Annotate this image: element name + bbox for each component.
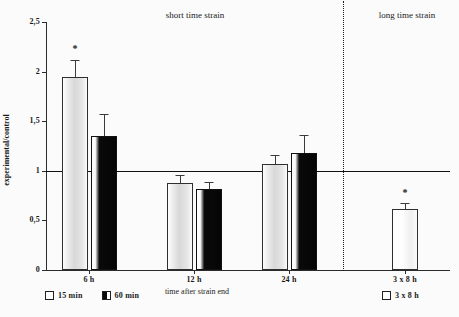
bar-3x8h — [392, 209, 418, 271]
x-label-12h: 12 h — [186, 275, 201, 284]
bar-12h-60min — [196, 189, 222, 270]
bar-12h-15min — [167, 183, 193, 270]
legend-label-15min: 15 min — [58, 291, 83, 300]
errorcap-24h-60min — [300, 135, 309, 136]
significance-6h-15min: * — [73, 44, 78, 54]
y-tick-label-0.5: 0,5 — [29, 216, 40, 224]
x-tick-24h — [289, 270, 290, 274]
legend-swatch-60min — [102, 291, 111, 300]
x-tick-12h — [194, 270, 195, 274]
y-tick-label-2: 2 — [36, 68, 40, 76]
plot-area: 2,5 2 1,5 1 0,5 0 short time strain long… — [47, 22, 450, 270]
region-label-short: short time strain — [166, 10, 225, 20]
x-tick-3x8h — [405, 270, 406, 274]
x-label-6h: 6 h — [83, 275, 94, 284]
bar-24h-60min — [291, 153, 317, 270]
y-tick-2.5 — [42, 22, 47, 23]
x-tick-6h — [89, 270, 90, 274]
errorcap-12h-60min — [205, 182, 214, 183]
bar-6h-15min — [62, 77, 88, 270]
legend-item-60min: 60 min — [102, 291, 140, 300]
bar-24h-15min — [262, 164, 288, 270]
errorbar-24h-15min — [275, 156, 276, 164]
legend-short-time: 15 min 60 min — [45, 291, 153, 300]
y-tick-label-1.5: 1,5 — [29, 117, 40, 125]
errorcap-3x8h — [401, 203, 410, 204]
y-axis-line — [46, 22, 47, 271]
significance-3x8h: * — [403, 188, 408, 198]
errorcap-6h-60min — [100, 114, 109, 115]
errorbar-3x8h — [405, 204, 406, 209]
y-tick-1.5 — [42, 121, 47, 122]
bar-6h-60min — [91, 136, 117, 270]
legend-label-3x8h: 3 x 8 h — [395, 291, 419, 300]
legend-swatch-3x8h — [382, 291, 391, 300]
y-tick-2 — [42, 72, 47, 73]
legend-long-time: 3 x 8 h — [382, 291, 433, 300]
errorbar-24h-60min — [304, 136, 305, 153]
y-tick-label-2.5: 2,5 — [29, 18, 40, 26]
y-tick-0.5 — [42, 220, 47, 221]
errorbar-6h-15min — [75, 61, 76, 77]
x-axis-line — [46, 270, 450, 271]
region-divider — [343, 1, 344, 271]
x-label-24h: 24 h — [281, 275, 296, 284]
errorbar-6h-60min — [104, 115, 105, 136]
errorbar-12h-15min — [180, 176, 181, 183]
legend-swatch-15min — [45, 291, 54, 300]
legend-item-15min: 15 min — [45, 291, 83, 300]
legend-label-60min: 60 min — [115, 291, 140, 300]
x-axis-title: time after strain end — [165, 287, 229, 296]
y-tick-label-0: 0 — [36, 266, 40, 274]
errorbar-12h-60min — [209, 183, 210, 189]
legend-item-3x8h: 3 x 8 h — [382, 291, 419, 300]
y-tick-label-1: 1 — [36, 167, 40, 175]
chart-figure: experimental/control 2,5 2 1,5 1 0,5 0 s… — [0, 0, 459, 317]
y-tick-0 — [42, 270, 47, 271]
errorcap-6h-15min — [71, 60, 80, 61]
region-label-long: long time strain — [379, 10, 436, 20]
errorcap-24h-15min — [271, 155, 280, 156]
x-label-3x8h: 3 x 8 h — [393, 275, 417, 284]
y-axis-title: experimental/control — [2, 114, 11, 185]
errorcap-12h-15min — [176, 175, 185, 176]
